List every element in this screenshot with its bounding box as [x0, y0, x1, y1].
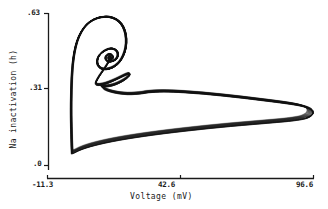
- trajectory-sheet: [72, 17, 309, 151]
- x-tick-label-left: -11.3: [32, 181, 53, 189]
- y-axis-title: Na inactivation (h): [10, 39, 18, 159]
- trajectory-sheet: [71, 16, 311, 151]
- x-tick-label-right: 96.6: [296, 181, 313, 189]
- phase-plane-figure: .63 .31 .0 -11.3 42.6 96.6 Voltage (mV) …: [0, 0, 328, 209]
- y-tick-label-bottom: .0: [33, 160, 41, 168]
- x-axis-title: Voltage (mV): [130, 193, 193, 201]
- y-tick-label-middle: .31: [29, 84, 42, 92]
- trajectory-sheet: [72, 17, 310, 151]
- x-axis: [47, 175, 314, 179]
- attractor-trajectory: [70, 16, 313, 154]
- y-tick-label-top: .63: [27, 9, 40, 17]
- y-axis: [44, 13, 49, 170]
- plot-canvas: [0, 0, 328, 209]
- x-tick-label-middle: 42.6: [158, 181, 175, 189]
